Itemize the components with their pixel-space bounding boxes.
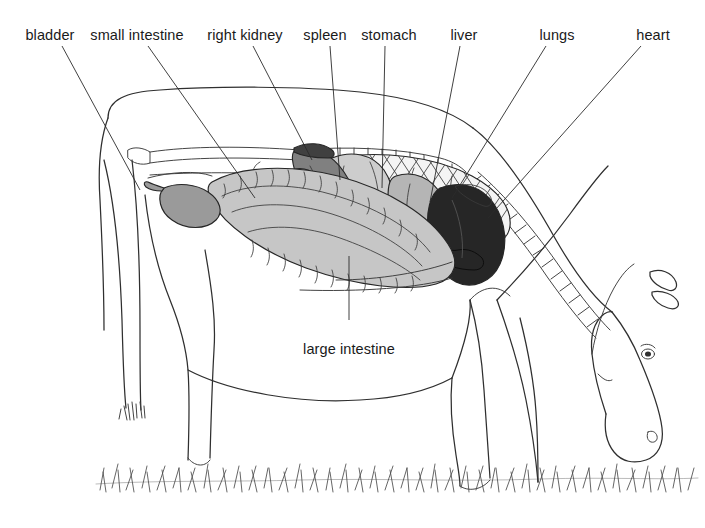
ear-near (650, 270, 677, 290)
label-liver: liver (450, 27, 477, 43)
label-lungs: lungs (539, 27, 574, 43)
lumbar-spine-upper (150, 147, 300, 152)
label-bladder: bladder (25, 27, 74, 43)
leader-small-intestine (148, 46, 255, 198)
tail-front-edge (104, 160, 126, 408)
ear-far (652, 291, 678, 308)
front-leg-far-front (497, 300, 538, 482)
front-leg-near-front (470, 300, 490, 478)
nostril (647, 431, 657, 442)
cheek-line (598, 374, 612, 381)
belly-line (188, 370, 452, 401)
tail-back-edge (132, 160, 141, 410)
horse-anatomy-diagram: bladder small intestine right kidney spl… (0, 0, 705, 528)
eye-pupil (645, 351, 651, 356)
head-outline (605, 312, 662, 462)
label-large-intestine: large intestine (303, 341, 395, 357)
shoulder-top (470, 288, 510, 300)
chest-line (452, 300, 470, 378)
grass-row (96, 464, 698, 492)
leader-bladder (62, 46, 140, 190)
label-small-intestine: small intestine (90, 27, 183, 43)
eye-brow (641, 344, 655, 348)
front-leg-near-back (451, 378, 460, 486)
sacrum (128, 148, 150, 164)
hind-leg-near-front (145, 195, 189, 460)
lumbar-spine-lower (150, 158, 300, 163)
hind-leg-near-back (205, 250, 215, 458)
leader-heart (488, 46, 641, 218)
diagram-page: bladder small intestine right kidney spl… (0, 0, 705, 528)
label-heart: heart (636, 27, 670, 43)
label-spleen: spleen (303, 27, 346, 43)
label-stomach: stomach (361, 27, 417, 43)
head-jaw-line (592, 312, 613, 414)
label-right-kidney: right kidney (207, 27, 283, 43)
rump-rear (99, 118, 108, 330)
bladder-neck (144, 182, 164, 191)
topline-back (108, 87, 473, 128)
leader-lungs (452, 46, 546, 198)
hoof-front-near (460, 480, 490, 489)
leader-right-kidney (253, 46, 312, 160)
hoof-hind-near (188, 458, 210, 465)
neck-front-edge (592, 264, 634, 354)
